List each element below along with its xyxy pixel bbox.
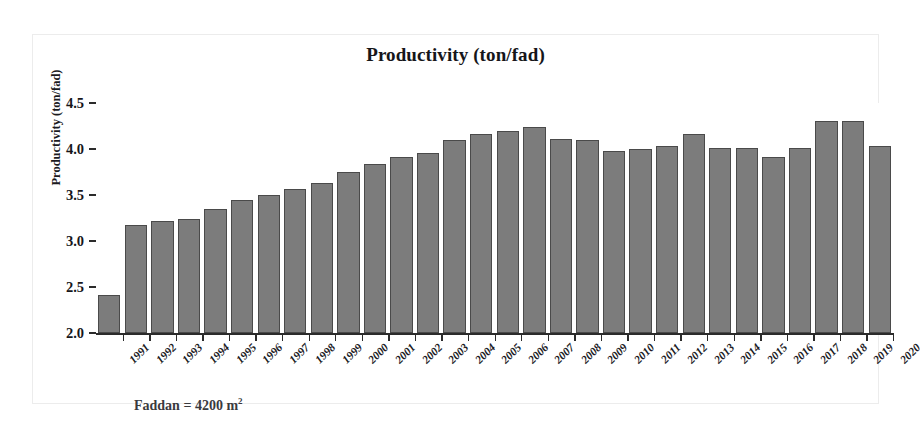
x-tick-label: 2017 — [818, 341, 843, 366]
x-tick-mark — [734, 334, 735, 341]
y-tick-mark — [89, 102, 96, 104]
x-tick-mark — [813, 334, 814, 341]
x-tick-mark — [627, 334, 628, 341]
bar — [390, 157, 412, 333]
bar — [523, 127, 545, 333]
bar — [550, 139, 572, 333]
y-tick-mark — [89, 194, 96, 196]
x-tick-label: 2006 — [526, 341, 551, 366]
bar — [284, 189, 306, 333]
x-tick-mark — [760, 334, 761, 341]
x-tick-label: 2016 — [791, 341, 816, 366]
x-tick-label: 2002 — [419, 341, 444, 366]
bar — [789, 148, 811, 333]
x-tick-label: 1992 — [154, 341, 179, 366]
bar — [364, 164, 386, 333]
bar — [656, 146, 678, 333]
bar — [629, 149, 651, 333]
x-tick-label: 2013 — [711, 341, 736, 366]
x-tick-label: 2009 — [605, 341, 630, 366]
x-tick-mark — [521, 334, 522, 341]
x-tick-mark — [787, 334, 788, 341]
bar — [709, 148, 731, 333]
y-axis-tick-labels: 4.54.03.53.02.52.0 — [38, 0, 84, 433]
x-tick-label: 1995 — [233, 341, 258, 366]
chart-footnote: Faddan = 4200 m2 — [134, 396, 243, 414]
bar — [762, 157, 784, 333]
x-tick-label: 2001 — [393, 341, 418, 366]
x-tick-label: 2008 — [579, 341, 604, 366]
x-tick-mark — [335, 334, 336, 341]
x-tick-label: 2005 — [499, 341, 524, 366]
x-tick-label: 2014 — [738, 341, 763, 366]
bar — [178, 219, 200, 333]
bar — [231, 200, 253, 333]
x-tick-label: 2004 — [472, 341, 497, 366]
y-tick-label: 3.0 — [44, 233, 84, 250]
x-tick-label: 1994 — [207, 341, 232, 366]
y-tick-label: 3.5 — [44, 187, 84, 204]
x-tick-mark — [495, 334, 496, 341]
x-tick-mark — [123, 334, 124, 341]
y-tick-label: 4.0 — [44, 141, 84, 158]
bar — [151, 221, 173, 333]
x-tick-label: 1996 — [260, 341, 285, 366]
footnote-superscript: 2 — [238, 396, 243, 406]
x-tick-label: 2020 — [897, 341, 922, 366]
x-tick-mark — [255, 334, 256, 341]
x-tick-label: 2012 — [685, 341, 710, 366]
x-tick-label: 1997 — [286, 341, 311, 366]
bar — [497, 131, 519, 333]
bar — [443, 140, 465, 333]
x-tick-mark — [282, 334, 283, 341]
x-tick-label: 1999 — [340, 341, 365, 366]
bar — [603, 151, 625, 333]
x-tick-mark — [468, 334, 469, 341]
x-tick-label: 2018 — [844, 341, 869, 366]
x-tick-mark — [309, 334, 310, 341]
bar — [576, 140, 598, 333]
bar — [311, 183, 333, 333]
bar — [125, 225, 147, 333]
x-tick-mark — [654, 334, 655, 341]
x-tick-mark — [601, 334, 602, 341]
y-tick-label: 2.5 — [44, 279, 84, 296]
x-tick-mark — [149, 334, 150, 341]
bar — [204, 209, 226, 333]
x-tick-mark — [415, 334, 416, 341]
y-tick-label: 2.0 — [44, 325, 84, 342]
x-tick-label: 2011 — [658, 341, 682, 365]
x-tick-mark — [229, 334, 230, 341]
bar — [869, 146, 891, 333]
chart-title: Productivity (ton/fad) — [0, 44, 911, 66]
y-tick-mark — [89, 148, 96, 150]
bar — [98, 295, 120, 333]
x-tick-label: 2003 — [446, 341, 471, 366]
x-tick-mark — [866, 334, 867, 341]
bar — [258, 195, 280, 333]
bar — [683, 134, 705, 333]
x-tick-mark — [176, 334, 177, 341]
bar — [337, 172, 359, 333]
y-tick-mark — [89, 240, 96, 242]
x-axis-tick-labels: 1991199219931994199519961997199819992000… — [96, 341, 896, 401]
x-tick-mark — [202, 334, 203, 341]
plot-area — [96, 103, 893, 333]
x-tick-label: 1991 — [127, 341, 152, 366]
y-tick-mark — [89, 286, 96, 288]
x-tick-mark — [388, 334, 389, 341]
x-tick-mark — [548, 334, 549, 341]
y-tick-label: 4.5 — [44, 95, 84, 112]
x-tick-label: 1993 — [180, 341, 205, 366]
bar — [470, 134, 492, 333]
x-tick-mark — [893, 334, 894, 341]
x-tick-mark — [707, 334, 708, 341]
x-tick-mark — [840, 334, 841, 341]
bar — [417, 153, 439, 333]
footnote-text: Faddan = 4200 m — [134, 398, 238, 413]
x-tick-label: 2010 — [632, 341, 657, 366]
x-tick-label: 2019 — [871, 341, 896, 366]
x-tick-label: 2007 — [552, 341, 577, 366]
x-tick-label: 2000 — [366, 341, 391, 366]
bar — [736, 148, 758, 333]
